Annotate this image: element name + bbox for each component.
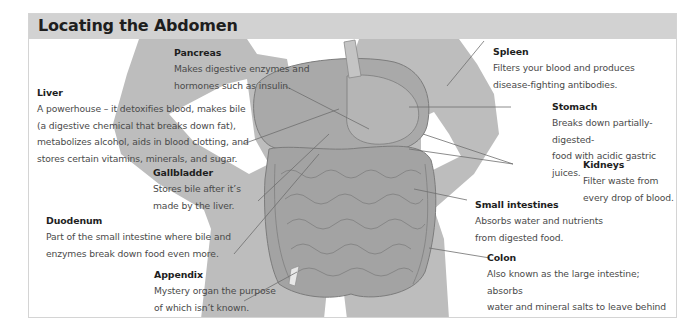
stomach-name: Stomach <box>552 98 676 115</box>
label-colon: Colon Also known as the large intestine;… <box>487 249 676 318</box>
pancreas-name: Pancreas <box>174 44 309 61</box>
header-bar: Locating the Abdomen <box>29 14 676 39</box>
colon-desc: Also known as the large intestine; absor… <box>487 266 676 318</box>
label-spleen: Spleen Filters your blood and produces d… <box>493 43 635 93</box>
diagram-frame: Locating the Abdomen <box>28 13 677 318</box>
duodenum-name: Duodenum <box>46 212 231 229</box>
small-intestines-desc: Absorbs water and nutrients from digeste… <box>475 213 603 246</box>
appendix-desc: Mystery organ the purpose of which isn’t… <box>154 283 276 316</box>
small-intestines-name: Small intestines <box>475 196 603 213</box>
gallbladder-desc: Stores bile after it’s made by the liver… <box>153 181 241 214</box>
label-liver: Liver A powerhouse – it detoxifies blood… <box>37 84 249 167</box>
gallbladder-name: Gallbladder <box>153 164 241 181</box>
spleen-name: Spleen <box>493 43 635 60</box>
liver-desc: A powerhouse – it detoxifies blood, make… <box>37 101 249 167</box>
spleen-desc: Filters your blood and produces disease-… <box>493 60 635 93</box>
diagram-title: Locating the Abdomen <box>38 16 238 35</box>
label-gallbladder: Gallbladder Stores bile after it’s made … <box>153 164 241 214</box>
liver-name: Liver <box>37 84 249 101</box>
appendix-name: Appendix <box>154 266 276 283</box>
duodenum-desc: Part of the small intestine where bile a… <box>46 229 231 262</box>
kidneys-name: Kidneys <box>583 156 674 173</box>
label-appendix: Appendix Mystery organ the purpose of wh… <box>154 266 276 316</box>
label-small-intestines: Small intestines Absorbs water and nutri… <box>475 196 603 246</box>
label-duodenum: Duodenum Part of the small intestine whe… <box>46 212 231 262</box>
colon-name: Colon <box>487 249 676 266</box>
